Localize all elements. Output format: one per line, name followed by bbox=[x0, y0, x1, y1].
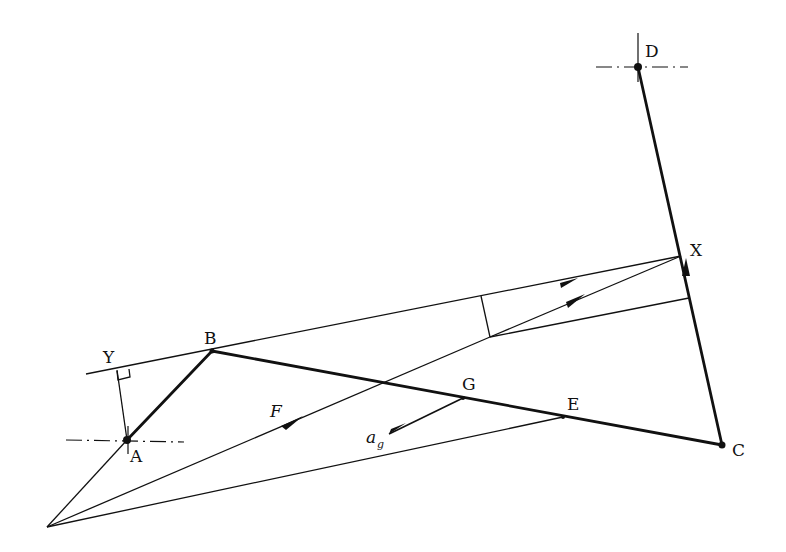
arrow-diag-line bbox=[566, 294, 585, 308]
arrow-F bbox=[281, 416, 303, 430]
label-X: X bbox=[690, 240, 703, 260]
construction-lines bbox=[47, 256, 689, 527]
pivot-D-centerlines bbox=[596, 33, 688, 82]
line-diag-to-X bbox=[490, 256, 681, 337]
joint-D bbox=[634, 63, 642, 71]
label-F: F bbox=[269, 401, 283, 421]
joint-C bbox=[719, 442, 726, 449]
label-D: D bbox=[645, 41, 659, 61]
label-E: E bbox=[567, 394, 579, 414]
label-ag-subscript: g bbox=[377, 438, 384, 451]
point-G bbox=[461, 396, 465, 400]
joint-A bbox=[123, 436, 131, 444]
label-ag: a bbox=[366, 427, 376, 447]
line-vert-small bbox=[481, 296, 490, 337]
ray-O-E bbox=[47, 417, 563, 527]
mechanism-diagram: A B C D E G X Y F a g bbox=[0, 0, 786, 552]
link-CD bbox=[638, 67, 722, 445]
point-E bbox=[561, 415, 565, 419]
joint-B bbox=[210, 349, 215, 354]
right-angle-mark bbox=[117, 369, 130, 380]
label-C: C bbox=[732, 440, 745, 460]
mechanism-links bbox=[127, 67, 722, 445]
link-BC bbox=[212, 351, 722, 445]
arrowheads bbox=[281, 258, 690, 434]
ray-O-A bbox=[47, 440, 127, 527]
label-B: B bbox=[204, 328, 217, 348]
link-AB bbox=[127, 351, 212, 440]
label-G: G bbox=[462, 374, 476, 394]
vector-ag bbox=[389, 398, 463, 434]
label-Y: Y bbox=[102, 347, 115, 367]
line-YB-X bbox=[86, 256, 681, 374]
line-base-to-CD bbox=[490, 298, 689, 337]
label-A: A bbox=[129, 446, 143, 466]
